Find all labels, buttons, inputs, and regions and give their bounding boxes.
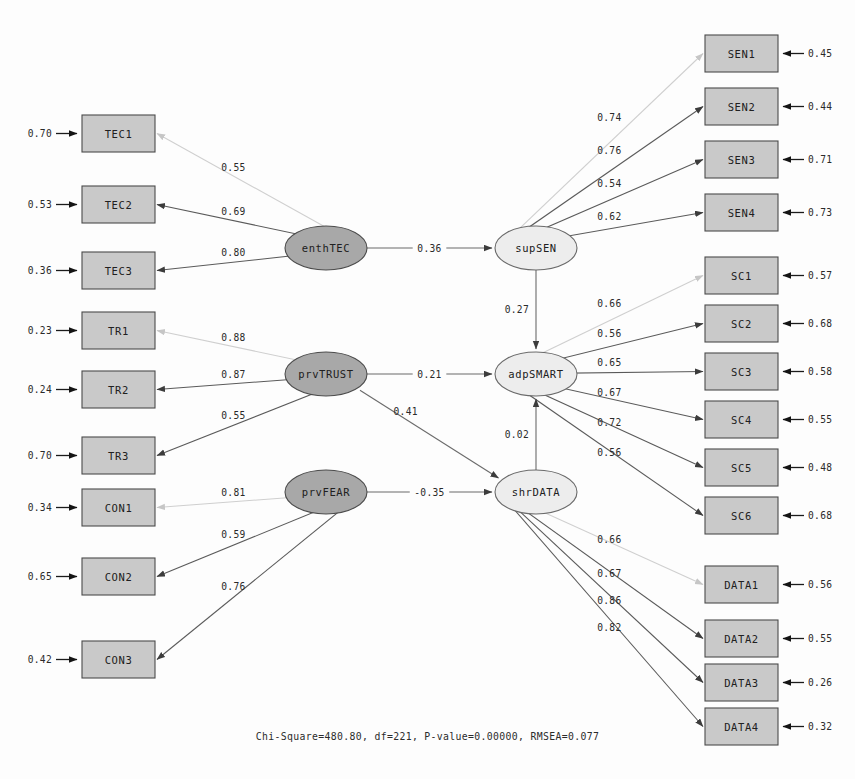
loading-value-SEN1: 0.74 bbox=[597, 112, 621, 123]
loading-value-CON2: 0.59 bbox=[221, 529, 245, 540]
error-value-DATA4: 0.32 bbox=[808, 721, 832, 732]
structural-coef-shrDATA-adpSMART: 0.02 bbox=[505, 429, 529, 440]
loading-value-TR1: 0.88 bbox=[221, 332, 245, 343]
latent-label-adpSMART: adpSMART bbox=[508, 368, 563, 380]
error-value-SEN2: 0.44 bbox=[808, 101, 832, 112]
error-value-SC4: 0.55 bbox=[808, 414, 832, 425]
observed-label-TEC2: TEC2 bbox=[105, 199, 133, 211]
latent-label-prvFEAR: prvFEAR bbox=[302, 486, 351, 498]
loading-value-DATA4: 0.82 bbox=[597, 622, 621, 633]
latent-label-prvTRUST: prvTRUST bbox=[298, 368, 353, 380]
loading-value-TR2: 0.87 bbox=[221, 369, 245, 380]
observed-label-SEN4: SEN4 bbox=[728, 207, 756, 219]
observed-label-CON3: CON3 bbox=[105, 654, 133, 666]
error-value-TR3: 0.70 bbox=[28, 450, 52, 461]
error-value-SEN4: 0.73 bbox=[808, 207, 832, 218]
observed-label-TR2: TR2 bbox=[108, 384, 129, 396]
loading-value-DATA3: 0.86 bbox=[597, 595, 621, 606]
error-value-SC3: 0.58 bbox=[808, 366, 832, 377]
error-value-SC6: 0.68 bbox=[808, 510, 832, 521]
nodes-layer: TEC1TEC2TEC3TR1TR2TR3CON1CON2CON3SEN1SEN… bbox=[82, 35, 778, 745]
structural-coef-enthTEC-supSEN: 0.36 bbox=[417, 243, 441, 254]
observed-label-SEN2: SEN2 bbox=[728, 101, 756, 113]
observed-label-SC5: SC5 bbox=[731, 462, 752, 474]
error-value-TR1: 0.23 bbox=[28, 325, 52, 336]
observed-label-DATA3: DATA3 bbox=[724, 677, 759, 689]
loading-value-SEN4: 0.62 bbox=[597, 211, 621, 222]
loading-value-CON1: 0.81 bbox=[221, 487, 245, 498]
loading-value-SC6: 0.56 bbox=[597, 447, 621, 458]
error-value-TR2: 0.24 bbox=[28, 384, 52, 395]
loading-arrow-CON3 bbox=[157, 492, 363, 660]
error-value-TEC3: 0.36 bbox=[28, 265, 52, 276]
sem-path-diagram: TEC1TEC2TEC3TR1TR2TR3CON1CON2CON3SEN1SEN… bbox=[0, 0, 855, 779]
error-value-SEN3: 0.71 bbox=[808, 154, 832, 165]
error-value-TEC1: 0.70 bbox=[28, 128, 52, 139]
observed-label-SC1: SC1 bbox=[731, 270, 752, 282]
structural-path-prvTRUST-to-shrDATA bbox=[360, 390, 499, 478]
structural-coef-prvTRUST-adpSMART: 0.21 bbox=[417, 369, 441, 380]
loading-value-DATA1: 0.66 bbox=[597, 534, 621, 545]
observed-label-TEC3: TEC3 bbox=[105, 265, 133, 277]
latent-label-supSEN: supSEN bbox=[515, 242, 557, 254]
error-value-DATA3: 0.26 bbox=[808, 677, 832, 688]
loading-value-SC5: 0.72 bbox=[597, 417, 621, 428]
observed-label-CON2: CON2 bbox=[105, 571, 133, 583]
observed-label-SC4: SC4 bbox=[731, 414, 752, 426]
observed-label-SEN1: SEN1 bbox=[728, 48, 756, 60]
loading-value-CON3: 0.76 bbox=[221, 581, 245, 592]
structural-coef-prvTRUST-shrDATA: 0.41 bbox=[394, 406, 418, 417]
observed-label-TR1: TR1 bbox=[108, 325, 129, 337]
observed-label-SC2: SC2 bbox=[731, 318, 752, 330]
error-value-DATA2: 0.55 bbox=[808, 633, 832, 644]
error-value-CON1: 0.34 bbox=[28, 502, 52, 513]
loading-value-SC3: 0.65 bbox=[597, 357, 621, 368]
error-value-SEN1: 0.45 bbox=[808, 48, 832, 59]
loading-value-TR3: 0.55 bbox=[221, 410, 245, 421]
loading-arrow-DATA3 bbox=[499, 492, 703, 683]
structural-coef-supSEN-adpSMART: 0.27 bbox=[505, 304, 529, 315]
loading-value-DATA2: 0.67 bbox=[597, 568, 621, 579]
latent-label-enthTEC: enthTEC bbox=[302, 242, 350, 254]
error-value-DATA1: 0.56 bbox=[808, 579, 832, 590]
observed-label-DATA1: DATA1 bbox=[724, 579, 759, 591]
observed-label-CON1: CON1 bbox=[105, 502, 133, 514]
error-value-SC5: 0.48 bbox=[808, 462, 832, 473]
observed-label-DATA2: DATA2 bbox=[724, 633, 759, 645]
error-value-CON2: 0.65 bbox=[28, 571, 52, 582]
error-value-TEC2: 0.53 bbox=[28, 199, 52, 210]
structural-coef-prvFEAR-shrDATA: -0.35 bbox=[414, 487, 444, 498]
loading-value-SC1: 0.66 bbox=[597, 298, 621, 309]
loading-value-SEN3: 0.54 bbox=[597, 178, 621, 189]
loading-value-TEC3: 0.80 bbox=[221, 247, 245, 258]
loading-value-SC2: 0.56 bbox=[597, 328, 621, 339]
path-arrows-layer bbox=[56, 54, 804, 727]
loading-arrow-DATA4 bbox=[499, 492, 703, 727]
loading-value-SEN2: 0.76 bbox=[597, 145, 621, 156]
fit-statistics-footer: Chi-Square=480.80, df=221, P-value=0.000… bbox=[0, 731, 855, 742]
observed-label-SC6: SC6 bbox=[731, 510, 752, 522]
loading-value-SC4: 0.67 bbox=[597, 387, 621, 398]
latent-label-shrDATA: shrDATA bbox=[512, 486, 561, 498]
observed-label-SC3: SC3 bbox=[731, 366, 752, 378]
loading-value-TEC2: 0.69 bbox=[221, 206, 245, 217]
loading-value-TEC1: 0.55 bbox=[221, 162, 245, 173]
observed-label-SEN3: SEN3 bbox=[728, 154, 756, 166]
error-value-SC2: 0.68 bbox=[808, 318, 832, 329]
observed-label-TR3: TR3 bbox=[108, 450, 129, 462]
observed-label-TEC1: TEC1 bbox=[105, 128, 133, 140]
error-value-CON3: 0.42 bbox=[28, 654, 52, 665]
error-value-SC1: 0.57 bbox=[808, 270, 832, 281]
